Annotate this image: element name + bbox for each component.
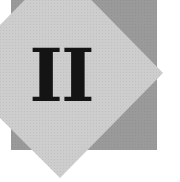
part-divider-graphic: II <box>0 0 180 182</box>
part-numeral: II <box>36 38 86 114</box>
